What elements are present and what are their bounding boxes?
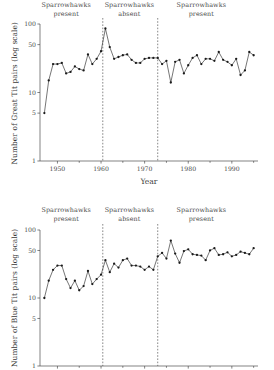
svg-text:100: 100 xyxy=(24,20,36,27)
svg-text:1950: 1950 xyxy=(50,165,66,172)
svg-text:5: 5 xyxy=(32,109,36,116)
plot-area-blue-tit: 151050100 xyxy=(0,190,274,370)
svg-text:5: 5 xyxy=(32,315,36,322)
svg-text:100: 100 xyxy=(24,226,36,233)
svg-text:10: 10 xyxy=(28,294,36,301)
chart-panel-blue-tit: Sparrowhawks present Sparrowhawks absent… xyxy=(0,190,274,370)
x-axis-label-year: Year xyxy=(109,177,189,186)
plot-area-great-tit: 15105010019501960197019801990 xyxy=(0,0,274,175)
svg-text:1970: 1970 xyxy=(137,165,153,172)
figure-container: Sparrowhawks present Sparrowhawks absent… xyxy=(0,0,274,370)
svg-text:1: 1 xyxy=(32,157,36,164)
svg-text:1980: 1980 xyxy=(180,165,196,172)
svg-text:1: 1 xyxy=(32,362,36,369)
svg-text:50: 50 xyxy=(28,41,36,48)
svg-text:10: 10 xyxy=(28,89,36,96)
svg-text:1960: 1960 xyxy=(93,165,109,172)
chart-panel-great-tit: Sparrowhawks present Sparrowhawks absent… xyxy=(0,0,274,192)
svg-text:1990: 1990 xyxy=(224,165,240,172)
svg-text:50: 50 xyxy=(28,247,36,254)
